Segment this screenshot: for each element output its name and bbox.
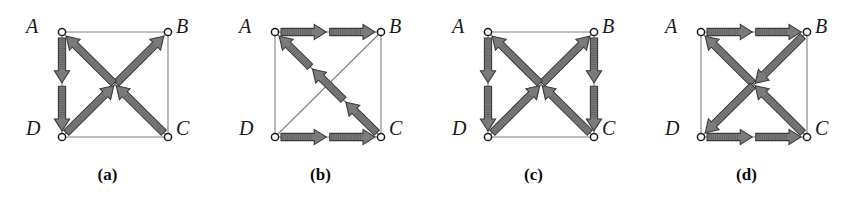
- figure-root: ABCD(a)ABCD(b)ABCD(c)ABCD(d): [0, 0, 851, 217]
- node-label-D: D: [665, 118, 679, 138]
- edge-C-A-arrow: [705, 36, 755, 86]
- node-label-C: C: [176, 118, 189, 138]
- panel-d: ABCD(d): [639, 0, 851, 217]
- node-label-A: A: [26, 16, 38, 36]
- panel-c: ABCD(c): [426, 0, 641, 217]
- edge-B-D-arrow: [705, 83, 755, 133]
- node-A: [271, 28, 278, 35]
- edge-D-B-arrow: [114, 36, 164, 86]
- node-label-D: D: [239, 118, 253, 138]
- edge-B-D-arrow: [755, 34, 805, 84]
- node-label-B: B: [815, 16, 827, 36]
- node-label-C: C: [602, 118, 615, 138]
- node-B: [164, 28, 171, 35]
- node-label-A: A: [665, 16, 677, 36]
- panel-caption-d: (d): [639, 165, 851, 185]
- node-D: [484, 133, 491, 140]
- edge-D-B-arrow: [64, 86, 114, 136]
- edge-C-A-arrow: [116, 86, 166, 136]
- edge-C-A-arrow: [755, 86, 805, 136]
- node-D: [697, 133, 704, 140]
- node-label-D: D: [452, 118, 466, 138]
- node-D: [58, 133, 65, 140]
- node-label-C: C: [815, 118, 828, 138]
- node-label-B: B: [602, 16, 614, 36]
- node-C: [377, 133, 384, 140]
- panel-caption-c: (c): [426, 165, 641, 185]
- node-label-A: A: [239, 16, 251, 36]
- node-B: [803, 28, 810, 35]
- node-C: [164, 133, 171, 140]
- edge-C-A-arrow: [542, 86, 592, 136]
- panel-a: ABCD(a): [0, 0, 215, 217]
- edge-D-B-arrow: [540, 36, 590, 86]
- panel-b: ABCD(b): [213, 0, 428, 217]
- node-label-B: B: [389, 16, 401, 36]
- panel-caption-a: (a): [0, 165, 215, 185]
- node-B: [590, 28, 597, 35]
- edge-D-B-arrow: [490, 86, 540, 136]
- node-label-A: A: [452, 16, 464, 36]
- node-A: [697, 28, 704, 35]
- panel-caption-b: (b): [213, 165, 428, 185]
- node-label-B: B: [176, 16, 188, 36]
- node-C: [590, 133, 597, 140]
- edge-C-A-arrow: [66, 36, 116, 86]
- node-C: [803, 133, 810, 140]
- node-A: [484, 28, 491, 35]
- node-B: [377, 28, 384, 35]
- node-D: [271, 133, 278, 140]
- node-A: [58, 28, 65, 35]
- edge-C-A-arrow: [492, 36, 542, 86]
- node-label-C: C: [389, 118, 402, 138]
- node-label-D: D: [26, 118, 40, 138]
